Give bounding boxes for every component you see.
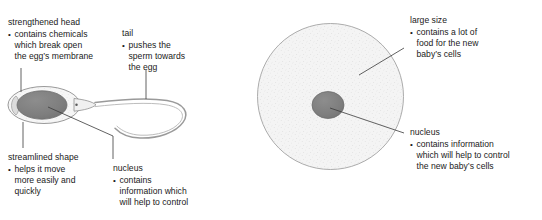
note-bullet-list: contains a lot of food for the new baby’… [410, 27, 478, 60]
note-tail: tail pushes the sperm towards the egg [122, 28, 185, 73]
note-bullet-list: pushes the sperm towards the egg [122, 40, 185, 73]
sperm-tail [95, 99, 186, 138]
sperm-cell-drawing [8, 87, 186, 139]
note-heading: large size [410, 15, 478, 26]
sperm-nucleus [17, 91, 67, 119]
egg-cell-membrane [258, 24, 404, 170]
note-heading: strengthened head [8, 17, 93, 28]
sperm-head-membrane [8, 87, 80, 124]
bullet-line-3: quickly [15, 186, 79, 197]
note-heading: nucleus [113, 163, 188, 174]
note-bullet-list: contains information which will help to … [113, 175, 188, 208]
note-bullet: contains chemicals which break open the … [8, 29, 93, 62]
note-strengthened-head: strengthened head contains chemicals whi… [8, 17, 93, 62]
sperm-tail-highlight [95, 103, 182, 135]
note-streamlined-shape: streamlined shape helps it move more eas… [8, 152, 79, 197]
bullet-line-1: contains a lot of [417, 27, 478, 37]
bullet-line-3: the new baby’s cells [417, 161, 510, 172]
note-heading: tail [122, 28, 185, 39]
leader-large-size [359, 48, 404, 75]
note-large-size: large size contains a lot of food for th… [410, 15, 478, 60]
sperm-midpiece [74, 99, 96, 112]
bullet-line-2: sperm towards [129, 51, 186, 62]
sperm-centriole [75, 104, 78, 107]
bullet-line-2: more easily and [15, 175, 79, 186]
note-heading: nucleus [410, 127, 510, 138]
bullet-line-2: information which [120, 186, 189, 197]
note-bullet: contains information which will help to … [113, 175, 188, 208]
bullet-line-3: the egg’s membrane [15, 51, 94, 62]
bullet-line-2: food for the new [417, 38, 479, 49]
note-bullet: contains information which will help to … [410, 139, 510, 172]
sperm-and-egg-cell-figure: strengthened head contains chemicals whi… [0, 0, 542, 220]
sperm-acrosome [12, 96, 20, 115]
bullet-line-2: which will help to control [417, 150, 510, 161]
bullet-line-1: contains chemicals [15, 29, 88, 39]
bullet-line-1: pushes the [129, 40, 171, 50]
bullet-line-1: contains [120, 175, 152, 185]
bullet-line-2: which break open [15, 40, 94, 51]
sperm-leader-lines [21, 68, 146, 159]
note-bullet: helps it move more easily and quickly [8, 164, 79, 197]
bullet-line-3: baby’s cells [417, 49, 479, 60]
egg-leader-lines [330, 48, 404, 133]
egg-cell-drawing [258, 24, 404, 170]
note-bullet-list: contains chemicals which break open the … [8, 29, 93, 62]
egg-nucleus [312, 92, 344, 119]
note-bullet-list: contains information which will help to … [410, 139, 510, 172]
note-bullet: contains a lot of food for the new baby’… [410, 27, 478, 60]
bullet-line-1: helps it move [15, 164, 66, 174]
bullet-line-1: contains information [417, 139, 494, 149]
note-heading: streamlined shape [8, 152, 79, 163]
leader-egg-nucleus [330, 108, 404, 133]
note-bullet-list: helps it move more easily and quickly [8, 164, 79, 197]
note-bullet: pushes the sperm towards the egg [122, 40, 185, 73]
bullet-line-3: the egg [129, 62, 186, 73]
bullet-line-3: will help to control [120, 197, 189, 208]
note-egg-nucleus: nucleus contains information which will … [410, 127, 510, 172]
note-sperm-nucleus: nucleus contains information which will … [113, 163, 188, 208]
